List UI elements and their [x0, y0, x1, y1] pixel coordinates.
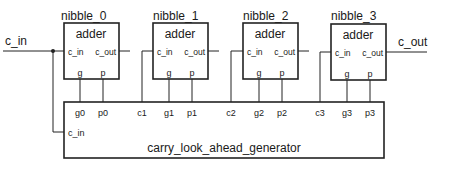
- nibble-3-p-port: p: [367, 69, 372, 79]
- generator-port-g3: g3: [342, 108, 352, 118]
- diagram-canvas: c_in nibble_0 adder c_in c_out g p nibbl…: [0, 0, 450, 169]
- generator-port-p1: p1: [187, 108, 197, 118]
- c1-wire: [142, 51, 153, 102]
- c3-wire: [320, 52, 331, 102]
- generator-port-g1: g1: [164, 108, 174, 118]
- c-out-output-label: c_out: [398, 35, 428, 49]
- nibble-0-block: nibble_0 adder c_in c_out g p: [61, 9, 119, 79]
- c-in-input-label: c_in: [5, 34, 27, 48]
- generator-port-p0: p0: [98, 108, 108, 118]
- nibble-2-p-port: p: [279, 68, 284, 78]
- nibble-2-g-port: g: [256, 68, 261, 78]
- nibble-0-g-port: g: [77, 68, 82, 78]
- nibble-3-instance-label: nibble_3: [331, 9, 377, 23]
- nibble-0-component-label: adder: [76, 27, 107, 41]
- nibble-0-instance-label: nibble_0: [61, 9, 107, 23]
- nibble-3-cin-port: c_in: [335, 48, 351, 58]
- nibble-2-component-label: adder: [255, 27, 286, 41]
- generator-port-p2: p2: [277, 108, 287, 118]
- c-in-to-generator-wire: [53, 51, 64, 132]
- nibble-0-cin-port: c_in: [68, 47, 84, 57]
- nibble-1-p-port: p: [189, 68, 194, 78]
- generator-name-label: carry_look_ahead_generator: [147, 141, 300, 155]
- carry-look-ahead-generator-block: c_in g0 p0 c1 g1 p1 c2 g2 p2 c3 g3 p3 ca…: [64, 102, 384, 158]
- nibble-1-g-port: g: [166, 68, 171, 78]
- nibble-2-cout-port: c_out: [274, 47, 295, 57]
- nibble-2-block: nibble_2 adder c_in c_out g p: [243, 9, 298, 79]
- generator-port-c2: c2: [226, 108, 236, 118]
- nibble-1-cout-port: c_out: [184, 47, 205, 57]
- generator-cin-port: c_in: [68, 128, 85, 138]
- nibble-3-component-label: adder: [343, 28, 374, 42]
- generator-port-g0: g0: [75, 108, 85, 118]
- nibble-3-cout-port: c_out: [362, 48, 383, 58]
- nibble-0-cout-port: c_out: [95, 47, 116, 57]
- nibble-1-component-label: adder: [165, 27, 196, 41]
- nibble-3-block: nibble_3 adder c_in c_out g p: [331, 9, 386, 80]
- nibble-1-instance-label: nibble_1: [153, 9, 199, 23]
- generator-port-g2: g2: [254, 108, 264, 118]
- nibble-1-block: nibble_1 adder c_in c_out g p: [153, 9, 208, 79]
- nibble-0-p-port: p: [100, 68, 105, 78]
- generator-port-p3: p3: [365, 108, 375, 118]
- generator-port-c1: c1: [137, 108, 147, 118]
- c2-wire: [231, 51, 243, 102]
- nibble-3-g-port: g: [344, 69, 349, 79]
- nibble-2-instance-label: nibble_2: [243, 9, 289, 23]
- nibble-2-cin-port: c_in: [247, 47, 263, 57]
- generator-port-c3: c3: [315, 108, 325, 118]
- nibble-1-cin-port: c_in: [157, 47, 173, 57]
